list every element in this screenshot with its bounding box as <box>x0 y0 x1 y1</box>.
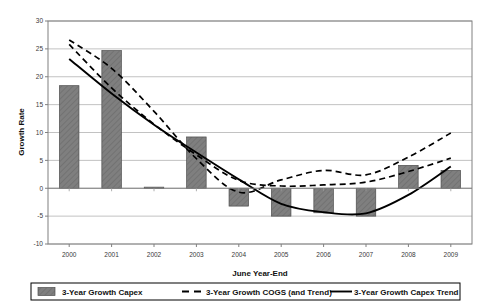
y-axis-title: Growth Rate <box>17 108 26 156</box>
x-tick-label-2007: 2007 <box>359 251 374 258</box>
x-tick-label-2006: 2006 <box>316 251 331 258</box>
y-tick-label: -10 <box>34 240 44 247</box>
x-tick-label-2001: 2001 <box>104 251 119 258</box>
x-tick-label-2008: 2008 <box>401 251 416 258</box>
bar-2005 <box>271 188 291 216</box>
bar-2006 <box>314 188 334 213</box>
bar-2008 <box>399 165 419 188</box>
x-axis-title: June Year-End <box>232 269 288 278</box>
bar-2009 <box>441 170 461 188</box>
x-tick-label-2000: 2000 <box>62 251 77 258</box>
growth-rate-chart: -10-5051015202530 2000200120022003200420… <box>0 0 491 306</box>
y-tick-label: 10 <box>36 129 44 136</box>
x-tick-label-2009: 2009 <box>444 251 459 258</box>
chart-canvas: -10-5051015202530 2000200120022003200420… <box>0 0 491 306</box>
y-tick-label: 30 <box>36 17 44 24</box>
y-tick-label: 25 <box>36 45 44 52</box>
legend-label: 3-Year Growth Capex <box>62 288 143 297</box>
legend-swatch-capex <box>38 288 55 296</box>
y-tick-label: -5 <box>37 212 43 219</box>
chart-legend: 3-Year Growth Capex3-Year Growth COGS (a… <box>31 283 460 300</box>
x-tick-label-2005: 2005 <box>274 251 289 258</box>
legend-label: 3-Year Growth COGS (and Trend) <box>206 288 332 297</box>
bar-2001 <box>102 51 122 189</box>
x-tick-label-2003: 2003 <box>189 251 204 258</box>
y-axis-ticks: -10-5051015202530 <box>34 17 48 247</box>
bar-2003 <box>187 137 207 188</box>
x-tick-label-2002: 2002 <box>147 251 162 258</box>
y-tick-label: 5 <box>39 157 43 164</box>
legend-label: 3-Year Growth Capex Trend <box>354 288 459 297</box>
x-tick-label-2004: 2004 <box>232 251 247 258</box>
y-tick-label: 15 <box>36 101 44 108</box>
y-tick-label: 0 <box>39 185 43 192</box>
y-tick-label: 20 <box>36 73 44 80</box>
bar-2000 <box>59 86 79 189</box>
